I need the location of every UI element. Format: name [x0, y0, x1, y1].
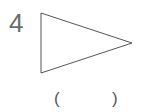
answer-close-paren: )	[112, 90, 118, 108]
answer-blank[interactable]	[62, 90, 110, 108]
answer-open-paren: (	[54, 90, 60, 108]
